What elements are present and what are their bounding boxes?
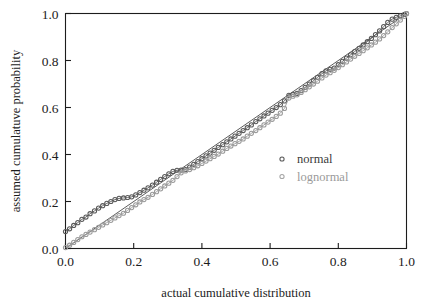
y-axis-tick-label: 0.6: [42, 101, 59, 116]
chart-figure: 0.00.20.40.60.81.00.00.20.40.60.81.0actu…: [0, 0, 428, 305]
x-axis-tick-label: 0.4: [193, 254, 210, 269]
x-axis-tick-label: 0.6: [262, 254, 279, 269]
legend-label-lognormal: lognormal: [297, 170, 349, 184]
y-axis-tick-label: 0.4: [42, 148, 59, 163]
y-axis-title: assumed cumulatuve probability: [9, 49, 23, 212]
y-axis-tick-label: 0.0: [42, 242, 59, 257]
x-axis-tick-label: 0.8: [330, 254, 347, 269]
x-axis-title: actual cumulative distribution: [161, 286, 311, 300]
x-axis-tick-label: 0.2: [125, 254, 142, 269]
legend-label-normal: normal: [297, 152, 333, 166]
y-axis-tick-label: 1.0: [42, 7, 59, 22]
x-axis-tick-label: 1.0: [398, 254, 415, 269]
y-axis-tick-label: 0.2: [42, 195, 59, 210]
x-axis-tick-label: 0.0: [57, 254, 74, 269]
pp-plot: 0.00.20.40.60.81.00.00.20.40.60.81.0actu…: [0, 0, 428, 305]
y-axis-tick-label: 0.8: [42, 54, 59, 69]
